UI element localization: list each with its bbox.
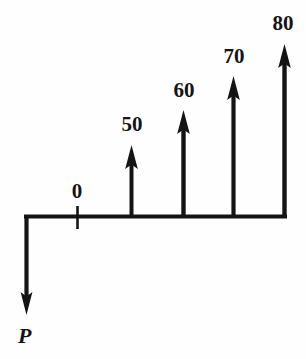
reaction-label-60: 60 [164,80,204,101]
diagram-canvas [0,0,306,359]
reaction-label-80: 80 [263,13,303,34]
reaction-label-70: 70 [214,46,254,67]
origin-label: 0 [63,181,91,202]
force-diagram: 0 50 60 70 80 P [0,0,306,359]
applied-load-label: P [18,325,31,347]
reaction-label-50: 50 [112,114,152,135]
